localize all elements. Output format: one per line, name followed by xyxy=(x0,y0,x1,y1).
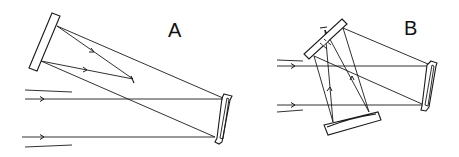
panel-a xyxy=(22,13,232,147)
focus-b xyxy=(320,27,327,28)
panel-b-label: B xyxy=(404,18,417,38)
beam-edge-bottom xyxy=(25,145,72,147)
panel-a-label: A xyxy=(168,20,181,40)
focus-a xyxy=(131,76,134,83)
beam-edge-bottom xyxy=(277,110,303,112)
beam-edge-top xyxy=(277,60,303,61)
optical-diagram xyxy=(0,0,459,157)
arrow-icon xyxy=(327,87,332,91)
beam-edge-top xyxy=(25,90,72,92)
mirror-b-flat xyxy=(304,19,347,59)
mirror-b-right xyxy=(421,61,437,111)
mirror-a-primary xyxy=(215,94,232,144)
ray-b-to-flat-2 xyxy=(314,56,422,104)
ray-a-to-secondary-1 xyxy=(57,26,223,98)
